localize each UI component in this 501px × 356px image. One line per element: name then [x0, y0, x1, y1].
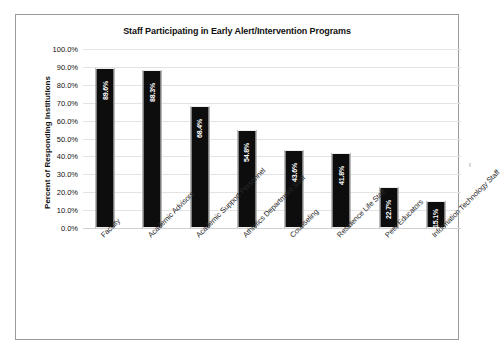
y-axis-tick-label: 50.0% — [57, 134, 78, 143]
y-axis-tick-label: 10.0% — [57, 206, 78, 215]
y-axis-tick-label: 60.0% — [57, 116, 78, 125]
bar-value-label: 68.4% — [196, 119, 203, 138]
bar[interactable]: 88.3% — [143, 70, 162, 228]
gridline — [83, 156, 461, 157]
gridline — [83, 103, 461, 104]
bar[interactable]: 89.6% — [96, 68, 115, 228]
gridline — [83, 192, 461, 193]
page-speck-artifact — [469, 163, 471, 167]
y-axis-tick-label: 90.0% — [57, 62, 78, 71]
bar[interactable]: 41.8% — [332, 153, 351, 228]
y-axis-tick-label: 30.0% — [57, 170, 78, 179]
y-axis-tick-label: 40.0% — [57, 152, 78, 161]
y-axis-tick-label: 0.0% — [61, 224, 78, 233]
y-axis-title: Percent of Responding Institutions — [43, 63, 52, 223]
bar-value-label: 89.6% — [102, 81, 109, 100]
bar[interactable]: 68.4% — [190, 106, 209, 228]
gridline — [83, 85, 461, 86]
gridline — [83, 121, 461, 122]
gridline — [83, 139, 461, 140]
bar-value-label: 88.3% — [149, 83, 156, 102]
y-axis-tick-label: 80.0% — [57, 80, 78, 89]
y-axis-tick-label: 20.0% — [57, 188, 78, 197]
chart-title: Staff Participating in Early Alert/Inter… — [16, 26, 458, 36]
y-axis-tick-label: 100.0% — [53, 45, 78, 54]
bar-value-label: 41.8% — [338, 166, 345, 185]
chart-frame: Staff Participating in Early Alert/Inter… — [15, 14, 459, 340]
bar-value-label: 54.8% — [243, 143, 250, 162]
gridline — [83, 228, 461, 229]
bar-value-label: 22.7% — [385, 200, 392, 219]
gridline — [83, 67, 461, 68]
y-axis-tick-label: 70.0% — [57, 98, 78, 107]
gridline — [83, 174, 461, 175]
gridline — [83, 49, 461, 50]
